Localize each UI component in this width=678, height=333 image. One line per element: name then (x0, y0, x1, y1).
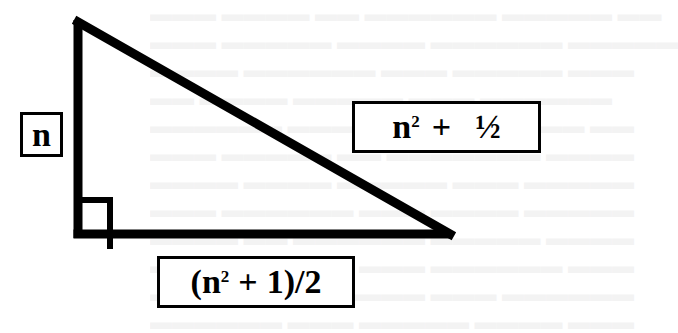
horizontal-leg-label-base: n (202, 263, 221, 301)
vertical-leg-label-text: n (32, 116, 51, 154)
horizontal-leg-label-operator: + (238, 263, 257, 301)
hypotenuse-label: n2+½ (352, 101, 541, 153)
hypotenuse-label-exponent: 2 (411, 113, 420, 130)
right-angle-marker (78, 197, 113, 249)
vertical-leg-label: n (20, 112, 63, 157)
horizontal-leg-label-term: 1)/2 (267, 263, 322, 301)
hypotenuse-label-operator: + (432, 108, 451, 146)
hypotenuse-label-term: ½ (475, 108, 501, 146)
hypotenuse-label-base: n (392, 108, 411, 146)
horizontal-leg-label: (n2+1)/2 (157, 256, 355, 308)
horizontal-leg-label-exponent: 2 (221, 268, 230, 285)
horizontal-leg-label-open-paren: ( (191, 263, 202, 301)
